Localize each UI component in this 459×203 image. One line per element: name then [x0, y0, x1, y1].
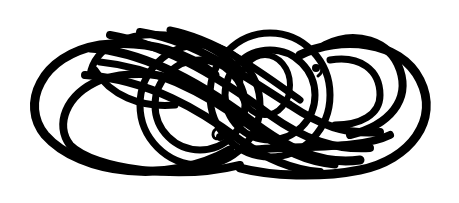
flourish-graphic [0, 0, 459, 203]
flourish-ornament [0, 0, 459, 203]
